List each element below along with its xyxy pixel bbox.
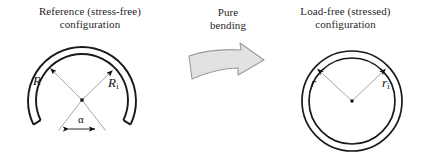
right-closed-ring [302,51,402,151]
subscript-i: i [387,81,389,91]
right-inner-radius-leader [352,69,386,101]
right-center-dot [350,99,353,102]
ring-end-cap-left [33,120,40,125]
gap-edge-right [82,100,106,131]
label-opening-angle-alpha: α [78,114,84,125]
left-center-dot [80,98,83,101]
outer-radius-leader [51,69,83,101]
right-outer-radius-leader [318,69,353,101]
pure-bending-arrow [189,43,264,79]
diagram-canvas [0,0,429,164]
label-inner-radius-Ri: Ri [108,76,119,91]
label-outer-radius-R: R [33,74,41,87]
ring-end-cap-right [123,120,130,125]
subscript-i: i [116,81,118,91]
bending-configuration-figure: Reference (stress-free) configuration Pu… [0,0,429,164]
arrow-body [189,43,264,79]
label-inner-radius-ri: ri [382,76,390,91]
label-outer-radius-r: r [311,76,316,89]
